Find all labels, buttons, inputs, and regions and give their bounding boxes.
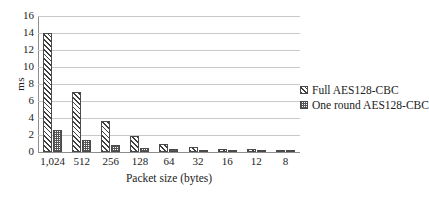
bar (43, 33, 52, 152)
y-tick-label: 8 (4, 78, 34, 89)
bar (257, 150, 266, 152)
bar-group (38, 16, 67, 152)
bar (159, 144, 168, 153)
y-tick-label: 10 (4, 61, 34, 72)
x-tick-label: 8 (271, 154, 300, 170)
x-tick-label: 512 (67, 154, 96, 170)
bar-group (213, 16, 242, 152)
legend-swatch-icon (300, 101, 308, 109)
bar (276, 150, 285, 152)
bar (140, 148, 149, 152)
y-tick-label: 12 (4, 44, 34, 55)
y-axis-tick-labels: 0246810121416 (0, 16, 34, 153)
bar (169, 149, 178, 152)
y-tick-label: 6 (4, 95, 34, 106)
x-tick-label: 1,024 (38, 154, 67, 170)
bar-group (242, 16, 271, 152)
gridline (38, 152, 300, 153)
plot-area (38, 16, 300, 152)
bar (286, 150, 295, 152)
bar (111, 145, 120, 152)
bar (82, 140, 91, 152)
bar (247, 149, 256, 152)
bar-group (271, 16, 300, 152)
x-tick-label: 32 (184, 154, 213, 170)
bar (72, 92, 81, 152)
bar-group (154, 16, 183, 152)
legend-item: Full AES128-CBC (300, 84, 426, 96)
x-tick-label: 16 (213, 154, 242, 170)
legend-label: One round AES128-CBC (312, 99, 429, 111)
legend-swatch-icon (300, 86, 308, 94)
legend-item: One round AES128-CBC (300, 99, 426, 111)
x-tick-label: 64 (154, 154, 183, 170)
bar (53, 130, 62, 152)
bar-group (125, 16, 154, 152)
y-tick-label: 4 (4, 112, 34, 123)
chart-legend: Full AES128-CBCOne round AES128-CBC (300, 84, 426, 114)
x-tick-label: 256 (96, 154, 125, 170)
bar-group (184, 16, 213, 152)
bars-layer (38, 16, 300, 152)
x-axis-title: Packet size (bytes) (38, 172, 300, 184)
bar (189, 147, 198, 152)
legend-label: Full AES128-CBC (312, 84, 399, 96)
x-axis-tick-labels: 1,024512256128643216128 (38, 154, 300, 170)
x-tick-label: 12 (242, 154, 271, 170)
y-tick-label: 14 (4, 27, 34, 38)
bar (130, 136, 139, 152)
y-tick-label: 2 (4, 129, 34, 140)
y-tick-label: 16 (4, 10, 34, 21)
y-tick-label: 0 (4, 146, 34, 157)
x-tick-label: 128 (125, 154, 154, 170)
bar (101, 121, 110, 152)
bar (218, 149, 227, 152)
bar (228, 150, 237, 152)
bar-group (96, 16, 125, 152)
bar (199, 150, 208, 152)
bar-group (67, 16, 96, 152)
